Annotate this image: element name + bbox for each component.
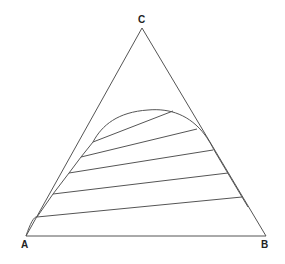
- vertex-label-a: A: [21, 240, 28, 250]
- ternary-diagram: [0, 0, 285, 264]
- triangle-outline: [26, 28, 266, 236]
- vertex-label-b: B: [261, 240, 268, 250]
- binodal-curve: [26, 110, 248, 236]
- tie-line-4: [53, 173, 228, 194]
- tie-lines: [37, 111, 242, 217]
- tie-line-5: [37, 197, 242, 217]
- vertex-label-c: C: [138, 15, 145, 25]
- tie-line-3: [69, 150, 213, 173]
